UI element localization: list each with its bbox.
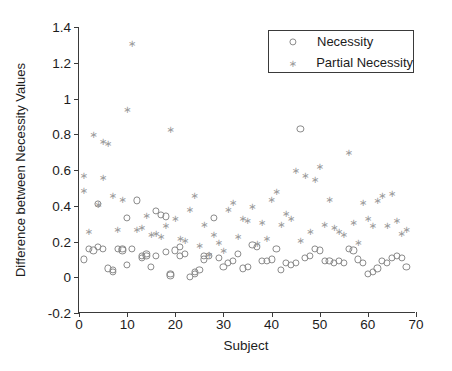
- y-tick-label: 0: [63, 270, 71, 285]
- y-tick-label: 1: [63, 91, 71, 106]
- x-tick-label: 10: [120, 317, 135, 332]
- data-point-open-circle: [162, 249, 169, 256]
- data-point-open-circle: [133, 197, 140, 204]
- data-point-asterisk: [296, 235, 305, 244]
- legend-label: Necessity: [317, 34, 373, 49]
- data-point-asterisk: [99, 173, 108, 182]
- x-tick-label: 60: [360, 317, 375, 332]
- data-point-open-circle: [278, 267, 285, 274]
- data-point-open-circle: [403, 263, 410, 270]
- data-point-asterisk: [383, 221, 392, 230]
- data-point-asterisk: [349, 217, 358, 226]
- data-point-asterisk: [195, 241, 204, 250]
- legend-label: Partial Necessity: [316, 55, 413, 70]
- data-point-asterisk: [286, 214, 295, 223]
- x-tick-label: 50: [312, 317, 327, 332]
- data-point-asterisk: [306, 226, 315, 235]
- data-point-asterisk: [368, 221, 377, 230]
- data-point-asterisk: [171, 214, 180, 223]
- legend-marker-slot: [269, 31, 317, 52]
- data-point-asterisk: [257, 217, 266, 226]
- data-point-asterisk: [272, 187, 281, 196]
- x-tick-label: 0: [75, 317, 83, 332]
- chart-legend: NecessityPartial Necessity: [268, 30, 414, 73]
- data-point-asterisk: [123, 105, 132, 114]
- data-point-asterisk: [219, 246, 228, 255]
- data-point-open-circle: [273, 245, 280, 252]
- x-tick-label: 30: [216, 317, 231, 332]
- data-point-asterisk: [233, 232, 242, 241]
- data-point-asterisk: [291, 166, 300, 175]
- data-point-open-circle: [80, 256, 87, 263]
- data-point-open-circle: [316, 247, 323, 254]
- data-point-asterisk: [229, 198, 238, 207]
- data-point-asterisk: [277, 219, 286, 228]
- data-point-asterisk: [339, 230, 348, 239]
- y-tick-label: 0.8: [52, 127, 71, 142]
- data-point-asterisk: [402, 224, 411, 233]
- data-point-open-circle: [124, 261, 131, 268]
- y-tick-label: 1.2: [52, 55, 71, 70]
- data-point-asterisk: [325, 194, 334, 203]
- scatter-plot-figure: Difference between Necessity Values Subj…: [0, 0, 452, 371]
- data-point-open-circle: [244, 263, 251, 270]
- data-point-asterisk: [204, 250, 213, 259]
- x-axis-label: Subject: [223, 338, 268, 353]
- data-point-open-circle: [196, 267, 203, 274]
- legend-item-partial-necessity[interactable]: Partial Necessity: [269, 52, 413, 73]
- y-axis-label: Difference between Necessity Values: [13, 63, 28, 277]
- data-point-open-circle: [119, 247, 126, 254]
- data-point-asterisk: [79, 185, 88, 194]
- y-tick-label: 0.4: [52, 198, 71, 213]
- y-tick-label: 0.2: [52, 234, 71, 249]
- data-point-open-circle: [234, 250, 241, 257]
- data-point-open-circle: [292, 259, 299, 266]
- data-point-asterisk: [108, 191, 117, 200]
- data-point-open-circle: [374, 265, 381, 272]
- data-point-asterisk: [89, 130, 98, 139]
- y-tick-label: -0.2: [48, 306, 71, 321]
- data-point-open-circle: [152, 252, 159, 259]
- data-point-asterisk: [310, 174, 319, 183]
- data-point-open-circle: [297, 125, 304, 132]
- data-point-open-circle: [124, 215, 131, 222]
- data-point-asterisk: [378, 191, 387, 200]
- data-point-open-circle: [398, 254, 405, 261]
- y-tick-label: 1.4: [52, 20, 71, 35]
- data-point-asterisk: [344, 148, 353, 157]
- data-point-asterisk: [253, 239, 262, 248]
- data-point-open-circle: [268, 256, 275, 263]
- data-point-asterisk: [301, 171, 310, 180]
- y-tick-label: 0.6: [52, 163, 71, 178]
- legend-item-necessity[interactable]: Necessity: [269, 31, 413, 52]
- data-point-asterisk: [113, 224, 122, 233]
- data-point-asterisk: [137, 223, 146, 232]
- data-point-asterisk: [200, 219, 209, 228]
- data-point-asterisk: [79, 171, 88, 180]
- data-point-open-circle: [99, 245, 106, 252]
- data-point-asterisk: [243, 216, 252, 225]
- data-point-asterisk: [118, 194, 127, 203]
- data-point-asterisk: [387, 189, 396, 198]
- data-point-open-circle: [210, 215, 217, 222]
- data-point-asterisk: [262, 233, 271, 242]
- data-point-asterisk: [392, 216, 401, 225]
- data-point-asterisk: [359, 198, 368, 207]
- data-point-asterisk: [320, 219, 329, 228]
- data-point-asterisk: [103, 139, 112, 148]
- x-tick-label: 70: [408, 317, 423, 332]
- data-point-asterisk: [166, 124, 175, 133]
- data-point-open-circle: [167, 272, 174, 279]
- data-point-open-circle: [306, 252, 313, 259]
- data-point-asterisk: [180, 235, 189, 244]
- data-point-open-circle: [148, 263, 155, 270]
- data-point-open-circle: [229, 258, 236, 265]
- legend-marker-slot: [269, 52, 316, 73]
- x-tick-label: 40: [264, 317, 279, 332]
- data-point-asterisk: [354, 237, 363, 246]
- data-point-open-circle: [109, 268, 116, 275]
- data-point-asterisk: [94, 199, 103, 208]
- data-point-asterisk: [315, 162, 324, 171]
- data-point-open-circle: [350, 247, 357, 254]
- data-point-asterisk: [161, 221, 170, 230]
